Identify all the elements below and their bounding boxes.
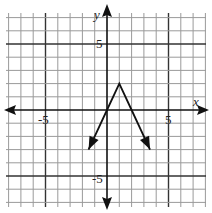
y-tick-pos5: 5 xyxy=(96,37,103,50)
y-tick-neg5: -5 xyxy=(92,172,103,185)
x-tick-neg5: -5 xyxy=(38,113,49,126)
x-tick-pos5: 5 xyxy=(165,113,172,126)
axes xyxy=(4,4,209,210)
y-axis-label: y xyxy=(94,8,100,21)
x-axis-label: x xyxy=(193,95,199,108)
coordinate-plane xyxy=(0,0,212,213)
